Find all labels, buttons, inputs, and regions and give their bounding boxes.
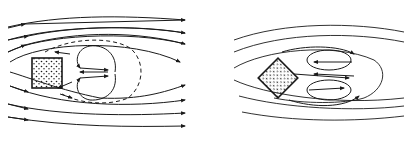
flow-diagram-left: [0, 0, 204, 143]
panel-left-square-obstacle: [0, 0, 204, 143]
wake-vortices: [55, 46, 115, 100]
rotated-square-obstacle: [258, 58, 298, 98]
panel-right-rotated-square-obstacle: [204, 0, 408, 143]
square-obstacle: [32, 58, 62, 88]
flow-diagram-right: [204, 0, 408, 143]
